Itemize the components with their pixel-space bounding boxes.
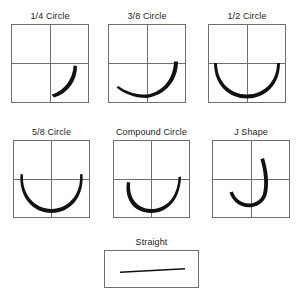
needle-arc-compound-circle <box>126 177 181 214</box>
panel-box-quarter-circle <box>11 24 89 103</box>
panel-label-j-shape: J Shape <box>212 127 290 138</box>
panel-five-eighths-circle: 5/8 Circle <box>13 127 90 218</box>
panel-compound-circle: Compound Circle <box>113 127 190 218</box>
needle-shape-chart: 1/4 Circle 3/8 Circle 1/2 Circle <box>0 0 299 297</box>
panel-quarter-circle: 1/4 Circle <box>11 11 89 103</box>
panel-label-quarter-circle: 1/4 Circle <box>11 11 89 22</box>
panel-label-three-eighths-circle: 3/8 Circle <box>108 11 186 22</box>
panel-box-straight <box>104 250 199 288</box>
needle-arc-j-shape <box>230 158 269 207</box>
panel-label-straight: Straight <box>104 237 199 248</box>
panel-half-circle: 1/2 Circle <box>208 11 286 103</box>
panel-label-five-eighths-circle: 5/8 Circle <box>13 127 90 138</box>
panel-label-compound-circle: Compound Circle <box>113 127 190 138</box>
panel-j-shape: J Shape <box>212 127 290 218</box>
panel-box-compound-circle <box>113 140 190 218</box>
needle-arc-quarter-circle <box>52 66 77 98</box>
needle-straight <box>120 268 185 273</box>
panel-label-half-circle: 1/2 Circle <box>208 11 286 22</box>
panel-straight: Straight <box>104 237 199 288</box>
panel-box-three-eighths-circle <box>108 24 186 103</box>
panel-box-j-shape <box>212 140 290 218</box>
panel-three-eighths-circle: 3/8 Circle <box>108 11 186 103</box>
panel-box-half-circle <box>208 24 286 103</box>
panel-box-five-eighths-circle <box>13 140 90 218</box>
